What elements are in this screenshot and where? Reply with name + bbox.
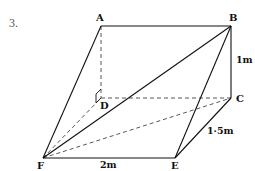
vertex-label-a: A (95, 12, 104, 23)
vertex-label-b: B (229, 12, 237, 23)
dimension-ce: 1·5m (207, 125, 234, 136)
vertex-label-f: F (37, 160, 44, 171)
wedge-geometry-diagram: 3. A B C D E F 1m 1·5m 2m (0, 0, 255, 171)
question-number: 3. (9, 16, 18, 30)
dimension-fe: 2m (100, 159, 117, 170)
vertex-label-d: D (100, 100, 109, 111)
dimension-bc: 1m (236, 54, 253, 65)
vertex-label-e: E (171, 160, 179, 171)
vertex-label-c: C (236, 93, 244, 104)
